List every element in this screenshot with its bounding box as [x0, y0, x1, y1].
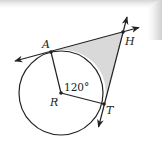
- point-h: [121, 30, 125, 34]
- point-r: [59, 91, 63, 95]
- diagram-frame: A H R T 120°: [0, 0, 162, 153]
- angle-label: 120°: [64, 81, 89, 93]
- label-a: A: [41, 38, 50, 51]
- geometry-diagram: A H R T 120°: [0, 0, 162, 153]
- radius-ra: [51, 52, 61, 93]
- label-t: T: [106, 104, 115, 117]
- radius-rt: [61, 93, 104, 104]
- label-r: R: [49, 96, 58, 109]
- label-h: H: [124, 35, 135, 48]
